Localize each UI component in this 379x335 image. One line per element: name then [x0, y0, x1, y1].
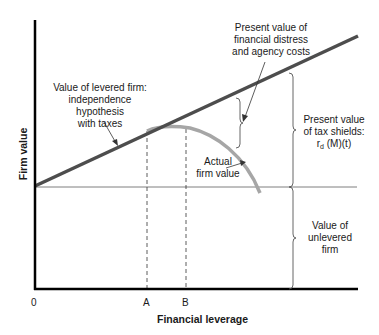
actual-firm-value-label: Actual firm value: [188, 156, 248, 180]
tax-shields-line-2: of tax shields:: [299, 126, 369, 138]
tax-shields-label: Present value of tax shields: rd (M)(t): [299, 114, 369, 153]
x-tick-0: 0: [31, 297, 37, 308]
unlevered-bracket: [289, 187, 296, 289]
unlevered-label-line-1: Value of: [300, 220, 360, 232]
unlevered-label-line-2: unlevered: [300, 232, 360, 244]
actual-label-line-2: firm value: [188, 168, 248, 180]
distress-label-line-2: financial distress: [226, 34, 316, 46]
tax-shields-bracket: [289, 73, 296, 187]
x-tick-a: A: [143, 297, 150, 308]
distress-label-line-1: Present value of: [226, 22, 316, 34]
x-tick-b: B: [182, 297, 189, 308]
tax-shields-formula: rd (M)(t): [299, 138, 369, 153]
arrow-head-icon: [112, 139, 118, 146]
levered-label-line-2: independence hypothesis: [45, 94, 155, 118]
distress-costs-label: Present value of financial distress and …: [226, 22, 316, 58]
distress-costs-bracket: [236, 98, 243, 148]
x-axis-title: Financial leverage: [157, 313, 248, 325]
levered-label-line-3: with taxes: [45, 118, 155, 130]
arrow-head-icon: [242, 114, 248, 122]
distress-label-pointer: [245, 62, 265, 117]
y-axis-title: Firm value: [17, 124, 29, 184]
actual-label-line-1: Actual: [188, 156, 248, 168]
levered-label-line-1: Value of levered firm:: [45, 82, 155, 94]
levered-firm-label: Value of levered firm: independence hypo…: [45, 82, 155, 130]
distress-label-line-3: and agency costs: [226, 46, 316, 58]
tax-shields-line-1: Present value: [299, 114, 369, 126]
formula-rest: (M)(t): [324, 138, 351, 149]
unlevered-firm-label: Value of unlevered firm: [300, 220, 360, 256]
unlevered-label-line-3: firm: [300, 244, 360, 256]
